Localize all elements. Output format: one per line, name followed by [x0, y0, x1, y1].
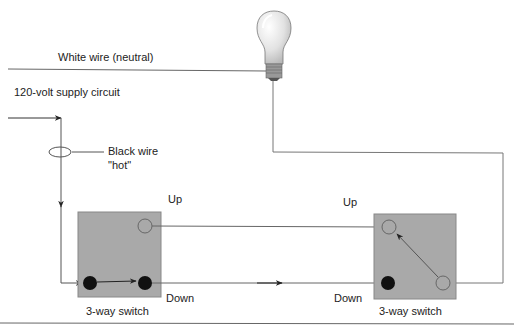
left-up-label: Up [168, 193, 182, 206]
right-down-terminal [381, 276, 395, 290]
black-wire-label: Black wire [108, 145, 158, 158]
right-down-label: Down [334, 292, 362, 305]
left-switch-label: 3-way switch [86, 305, 149, 318]
hot-label: "hot" [108, 159, 131, 172]
supply-label: 120-volt supply circuit [14, 86, 120, 99]
right-switch-label: 3-way switch [379, 305, 442, 318]
right-up-label: Up [343, 196, 357, 209]
three-way-switch-diagram [0, 0, 514, 329]
left-down-terminal [138, 276, 152, 290]
left-common-terminal [83, 276, 97, 290]
black-wire-marker [49, 147, 71, 157]
white-wire-label: White wire (neutral) [58, 51, 153, 64]
right-3way-switch [374, 214, 456, 299]
left-3way-switch [78, 212, 161, 297]
left-down-label: Down [166, 292, 194, 305]
neutral-wire [8, 69, 266, 71]
bottom-divider [0, 323, 514, 324]
up-traveler-wire [152, 226, 384, 227]
